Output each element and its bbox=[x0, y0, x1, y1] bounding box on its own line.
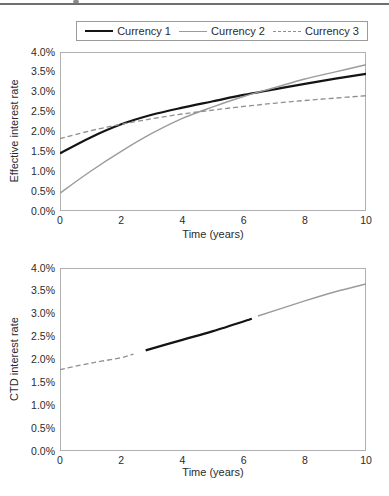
x-tick-label: 0 bbox=[45, 214, 75, 227]
plot-svg bbox=[60, 268, 366, 451]
y-tick-label: 0.5% bbox=[15, 422, 55, 435]
y-tick-label: 4.0% bbox=[15, 46, 55, 59]
legend-entry-2: Currency 2 bbox=[179, 25, 265, 37]
x-tick-label: 6 bbox=[229, 214, 259, 227]
legend-line-sample-icon bbox=[273, 31, 301, 32]
series-line-ctd-segment-currency-3- bbox=[60, 354, 133, 370]
x-tick-label: 4 bbox=[167, 214, 197, 227]
series-line-currency-2 bbox=[60, 65, 366, 193]
y-tick-label: 2.0% bbox=[15, 353, 55, 366]
y-tick-label: 1.0% bbox=[15, 399, 55, 412]
x-tick-label: 4 bbox=[167, 454, 197, 467]
legend-entry-3: Currency 3 bbox=[273, 25, 359, 37]
legend-label: Currency 2 bbox=[211, 25, 265, 37]
legend-line-sample-icon bbox=[179, 31, 207, 32]
x-tick-label: 10 bbox=[351, 454, 381, 467]
legend-label: Currency 3 bbox=[305, 25, 359, 37]
y-tick-label: 3.5% bbox=[15, 65, 55, 78]
y-tick-label: 0.5% bbox=[15, 185, 55, 198]
figure-page: Currency 1Currency 2Currency 3 Effective… bbox=[0, 0, 389, 496]
series-line-currency-1 bbox=[60, 74, 366, 154]
x-tick-label: 0 bbox=[45, 454, 75, 467]
y-tick-label: 4.0% bbox=[15, 262, 55, 275]
y-tick-label: 3.0% bbox=[15, 307, 55, 320]
x-tick-label: 6 bbox=[229, 454, 259, 467]
series-line-ctd-segment-currency-1- bbox=[146, 319, 252, 351]
y-tick-label: 2.0% bbox=[15, 125, 55, 138]
x-axis-title-effective: Time (years) bbox=[182, 228, 243, 240]
legend-entry-1: Currency 1 bbox=[85, 25, 171, 37]
y-tick-label: 2.5% bbox=[15, 330, 55, 343]
y-tick-label: 1.0% bbox=[15, 165, 55, 178]
y-tick-label: 1.5% bbox=[15, 376, 55, 389]
plot-svg bbox=[60, 52, 366, 211]
x-tick-label: 2 bbox=[106, 454, 136, 467]
y-tick-label: 2.5% bbox=[15, 105, 55, 118]
effective-rate-plot-area bbox=[60, 52, 366, 211]
y-tick-label: 3.5% bbox=[15, 284, 55, 297]
y-tick-label: 1.5% bbox=[15, 145, 55, 158]
x-tick-label: 8 bbox=[290, 454, 320, 467]
chart-legend: Currency 1Currency 2Currency 3 bbox=[76, 21, 368, 41]
ctd-rate-plot-area bbox=[60, 268, 366, 451]
page-header-rule bbox=[0, 3, 389, 5]
legend-line-sample-icon bbox=[85, 30, 113, 32]
x-axis-title-ctd: Time (years) bbox=[182, 466, 243, 478]
legend-label: Currency 1 bbox=[117, 25, 171, 37]
y-tick-label: 3.0% bbox=[15, 85, 55, 98]
x-tick-label: 8 bbox=[290, 214, 320, 227]
series-line-ctd-segment-currency-2- bbox=[258, 284, 366, 316]
x-tick-label: 10 bbox=[351, 214, 381, 227]
x-tick-label: 2 bbox=[106, 214, 136, 227]
